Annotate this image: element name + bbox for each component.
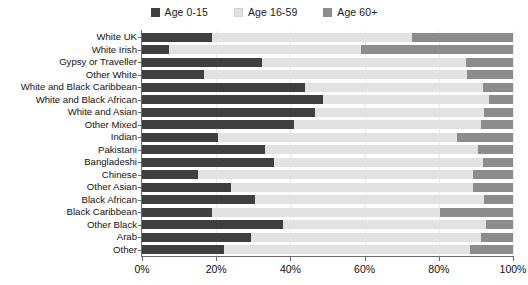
bar-row[interactable]: [142, 33, 513, 42]
bar-row[interactable]: [142, 58, 513, 67]
bar-segment[interactable]: [142, 170, 198, 179]
bar-segment[interactable]: [142, 145, 265, 154]
y-axis-tick: [138, 50, 142, 51]
bar-segment[interactable]: [169, 45, 362, 54]
bar-segment[interactable]: [481, 120, 513, 129]
bar-segment[interactable]: [305, 83, 483, 92]
legend-swatch-icon: [234, 8, 243, 17]
bar-row[interactable]: [142, 233, 513, 242]
bar-segment[interactable]: [142, 208, 212, 217]
y-axis-category-label: Other Black: [0, 220, 137, 230]
bar-segment[interactable]: [142, 233, 251, 242]
bar-segment[interactable]: [470, 245, 513, 254]
bar-segment[interactable]: [323, 95, 489, 104]
bar-segment[interactable]: [142, 158, 274, 167]
bar-row[interactable]: [142, 170, 513, 179]
bar-row[interactable]: [142, 158, 513, 167]
y-axis-labels: White UKWhite IrishGypsy or TravellerOth…: [0, 31, 137, 256]
bar-segment[interactable]: [142, 245, 224, 254]
bar-row[interactable]: [142, 120, 513, 129]
bar-row[interactable]: [142, 83, 513, 92]
bar-segment[interactable]: [218, 133, 457, 142]
x-axis-tick: [365, 257, 366, 261]
bar-segment[interactable]: [142, 183, 231, 192]
bar-segment[interactable]: [483, 83, 513, 92]
bar-segment[interactable]: [294, 120, 481, 129]
y-axis-tick: [138, 87, 142, 88]
bar-row[interactable]: [142, 245, 513, 254]
bar-segment[interactable]: [142, 45, 169, 54]
bar-row[interactable]: [142, 70, 513, 79]
y-axis-tick: [138, 37, 142, 38]
bar-segment[interactable]: [142, 120, 294, 129]
bar-segment[interactable]: [142, 108, 315, 117]
bar-segment[interactable]: [283, 220, 486, 229]
bar-segment[interactable]: [142, 33, 212, 42]
bar-row[interactable]: [142, 145, 513, 154]
bar-segment[interactable]: [198, 170, 473, 179]
bar-row[interactable]: [142, 108, 513, 117]
legend-label: Age 0-15: [165, 7, 208, 18]
y-axis-category-label: Other Asian: [0, 182, 137, 192]
y-axis-tick: [138, 150, 142, 151]
bar-segment[interactable]: [481, 233, 513, 242]
bar-row[interactable]: [142, 208, 513, 217]
bar-segment[interactable]: [142, 95, 323, 104]
bar-segment[interactable]: [274, 158, 483, 167]
bar-row[interactable]: [142, 95, 513, 104]
bar-segment[interactable]: [361, 45, 513, 54]
bar-segment[interactable]: [484, 108, 513, 117]
bar-segment[interactable]: [212, 208, 440, 217]
bar-segment[interactable]: [466, 58, 513, 67]
x-axis-line: [141, 256, 514, 257]
bar-segment[interactable]: [473, 183, 513, 192]
bar-segment[interactable]: [142, 220, 283, 229]
legend-label: Age 60+: [337, 7, 377, 18]
legend-item[interactable]: Age 0-15: [151, 7, 208, 18]
bar-segment[interactable]: [473, 170, 513, 179]
bar-segment[interactable]: [142, 58, 262, 67]
bar-row[interactable]: [142, 133, 513, 142]
chart-legend: Age 0-15Age 16-59Age 60+: [0, 5, 528, 19]
legend-label: Age 16-59: [248, 7, 297, 18]
x-axis-tick: [216, 257, 217, 261]
bar-segment[interactable]: [457, 133, 513, 142]
bar-segment[interactable]: [483, 158, 513, 167]
x-axis-tick: [439, 257, 440, 261]
bar-segment[interactable]: [251, 233, 481, 242]
y-axis-tick: [138, 162, 142, 163]
legend-swatch-icon: [323, 8, 332, 17]
bar-segment[interactable]: [489, 95, 513, 104]
bar-segment[interactable]: [231, 183, 474, 192]
bar-row[interactable]: [142, 45, 513, 54]
y-axis-tick: [138, 187, 142, 188]
bar-segment[interactable]: [142, 195, 255, 204]
y-axis-tick: [138, 175, 142, 176]
bar-segment[interactable]: [262, 58, 466, 67]
y-axis-category-label: Other White: [0, 70, 137, 80]
bar-segment[interactable]: [204, 70, 467, 79]
legend-item[interactable]: Age 60+: [323, 7, 377, 18]
bar-segment[interactable]: [142, 133, 218, 142]
bar-segment[interactable]: [255, 195, 484, 204]
bar-segment[interactable]: [224, 245, 470, 254]
bar-segment[interactable]: [486, 220, 513, 229]
bar-segment[interactable]: [467, 70, 513, 79]
y-axis-category-label: Gypsy or Traveller: [0, 57, 137, 67]
bar-segment[interactable]: [142, 83, 305, 92]
legend-item[interactable]: Age 16-59: [234, 7, 297, 18]
bar-row[interactable]: [142, 220, 513, 229]
bar-segment[interactable]: [265, 145, 478, 154]
bar-segment[interactable]: [440, 208, 513, 217]
y-axis-category-label: Pakistani: [0, 145, 137, 155]
bar-segment[interactable]: [484, 195, 513, 204]
bar-row[interactable]: [142, 183, 513, 192]
y-axis-tick: [138, 200, 142, 201]
bar-segment[interactable]: [142, 70, 204, 79]
bar-segment[interactable]: [315, 108, 484, 117]
bar-segment[interactable]: [478, 145, 513, 154]
x-axis-tick: [142, 257, 143, 261]
bar-segment[interactable]: [412, 33, 513, 42]
bar-segment[interactable]: [212, 33, 412, 42]
bar-row[interactable]: [142, 195, 513, 204]
